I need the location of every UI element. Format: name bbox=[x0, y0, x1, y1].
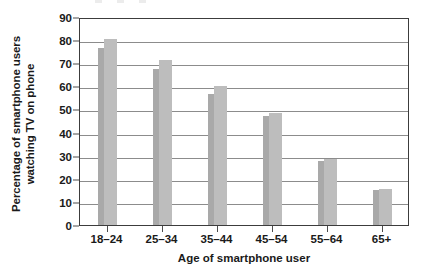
x-axis-tick-label: 35–44 bbox=[201, 233, 233, 245]
bars-layer bbox=[80, 19, 408, 225]
x-axis-tick-label: 55–64 bbox=[311, 233, 343, 245]
y-axis-tick-label: 40 bbox=[59, 128, 72, 140]
bar-chart: Percentage of smartphone users watching … bbox=[0, 0, 430, 276]
x-axis-tick-label: 25–34 bbox=[146, 233, 178, 245]
y-axis-tick-label: 60 bbox=[59, 81, 72, 93]
y-axis-tick-label: 90 bbox=[59, 12, 72, 24]
cropped-title-artifact bbox=[95, 0, 155, 4]
x-axis-tick-mark bbox=[327, 226, 328, 232]
y-axis-tick-label: 50 bbox=[59, 104, 72, 116]
y-axis-tick-label: 80 bbox=[59, 35, 72, 47]
bar-cluster bbox=[208, 19, 227, 225]
bar bbox=[214, 86, 227, 225]
bar-cluster bbox=[153, 19, 172, 225]
x-axis-tick-labels: 18–2425–3435–4445–5455–6465+ bbox=[79, 233, 409, 249]
x-axis-tick-mark bbox=[217, 226, 218, 232]
x-axis-tick-mark bbox=[382, 226, 383, 232]
bar bbox=[159, 60, 172, 225]
plot-area bbox=[79, 18, 409, 226]
bar bbox=[269, 113, 282, 225]
y-axis-tick-label: 70 bbox=[59, 58, 72, 70]
y-axis-tick-label: 10 bbox=[59, 197, 72, 209]
x-axis-title: Age of smartphone user bbox=[79, 252, 409, 264]
bar bbox=[379, 189, 392, 225]
x-axis-tick-label: 45–54 bbox=[256, 233, 288, 245]
bar-cluster bbox=[373, 19, 392, 225]
bar bbox=[104, 39, 117, 225]
x-axis-tick-marks bbox=[79, 226, 409, 232]
y-axis-title: Percentage of smartphone users watching … bbox=[0, 8, 46, 240]
y-axis-title-line-1: Percentage of smartphone users bbox=[10, 36, 23, 212]
y-axis-title-line-2: watching TV on phone bbox=[24, 64, 37, 185]
x-axis-tick-mark bbox=[107, 226, 108, 232]
bar bbox=[324, 159, 337, 225]
x-axis-tick-mark bbox=[272, 226, 273, 232]
y-axis-tick-label: 20 bbox=[59, 174, 72, 186]
bar-cluster bbox=[98, 19, 117, 225]
x-axis-tick-label: 18–24 bbox=[91, 233, 123, 245]
x-axis-tick-label: 65+ bbox=[372, 233, 392, 245]
x-axis-tick-mark bbox=[162, 226, 163, 232]
bar-cluster bbox=[318, 19, 337, 225]
y-axis-tick-label: 0 bbox=[66, 220, 72, 232]
bar-cluster bbox=[263, 19, 282, 225]
y-axis-tick-labels: 0102030405060708090 bbox=[46, 18, 72, 226]
y-axis-tick-label: 30 bbox=[59, 151, 72, 163]
